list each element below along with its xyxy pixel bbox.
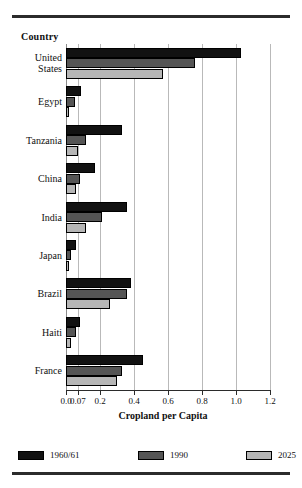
top-divider <box>12 15 290 18</box>
x-tick <box>66 390 67 395</box>
bar <box>66 97 75 107</box>
category-label-line: Tanzania <box>4 135 62 146</box>
legend-label: 2025 <box>278 450 296 460</box>
category-label-line: Egypt <box>4 96 62 107</box>
bar <box>66 338 71 348</box>
gridline <box>202 44 203 390</box>
bar <box>66 366 122 376</box>
bar <box>66 58 195 68</box>
category-label-line: Haiti <box>4 327 62 338</box>
x-tick-label: 0.2 <box>94 396 105 406</box>
gridline <box>236 44 237 390</box>
category-label: UnitedStates <box>4 52 62 74</box>
bar <box>66 327 76 337</box>
category-label-line: Brazil <box>4 288 62 299</box>
legend-swatch <box>18 451 44 460</box>
x-tick <box>168 390 169 395</box>
bar <box>66 212 102 222</box>
bar <box>66 278 131 288</box>
x-axis-title: Cropland per Capita <box>0 410 302 421</box>
category-label-line: United <box>4 52 62 63</box>
legend-item[interactable]: 1960/61 <box>18 448 80 462</box>
legend-label: 1960/61 <box>50 450 80 460</box>
bar <box>66 261 69 271</box>
bar <box>66 289 127 299</box>
gridline <box>134 44 135 390</box>
bar <box>66 135 86 145</box>
category-label-line: Japan <box>4 250 62 261</box>
x-tick <box>270 390 271 395</box>
legend-swatch <box>246 451 272 460</box>
x-tick <box>202 390 203 395</box>
bar <box>66 184 76 194</box>
bar <box>66 86 81 96</box>
category-label-line: States <box>4 63 62 74</box>
category-label: Tanzania <box>4 135 62 146</box>
x-tick-label: 0.8 <box>196 396 207 406</box>
category-label-line: China <box>4 173 62 184</box>
x-tick <box>236 390 237 395</box>
category-label: France <box>4 365 62 376</box>
x-tick-label: 0.07 <box>70 396 86 406</box>
chart-figure: Country UnitedStatesEgyptTanzaniaChinaIn… <box>0 0 302 488</box>
bar <box>66 202 127 212</box>
x-tick-label: 1.2 <box>264 396 275 406</box>
bar <box>66 240 76 250</box>
legend-item[interactable]: 2025 <box>246 448 296 462</box>
category-label: Haiti <box>4 327 62 338</box>
legend-label: 1990 <box>170 450 188 460</box>
bar <box>66 125 122 135</box>
bar <box>66 48 241 58</box>
category-label-line: India <box>4 212 62 223</box>
category-axis-title: Country <box>21 31 59 42</box>
x-tick <box>100 390 101 395</box>
bar <box>66 355 143 365</box>
x-tick-label: 1.0 <box>230 396 241 406</box>
x-tick-label: 0.4 <box>128 396 139 406</box>
category-label: India <box>4 212 62 223</box>
category-label: China <box>4 173 62 184</box>
gridline <box>168 44 169 390</box>
bar <box>66 146 78 156</box>
category-label: Brazil <box>4 288 62 299</box>
bar <box>66 69 163 79</box>
bar <box>66 107 69 117</box>
bar <box>66 223 86 233</box>
bar <box>66 299 110 309</box>
bottom-divider <box>12 472 290 475</box>
x-tick <box>78 390 79 395</box>
bar <box>66 376 117 386</box>
category-label-line: France <box>4 365 62 376</box>
x-tick <box>134 390 135 395</box>
legend-swatch <box>138 451 164 460</box>
bar <box>66 250 71 260</box>
x-tick-label: 0.6 <box>162 396 173 406</box>
legend-item[interactable]: 1990 <box>138 448 188 462</box>
bar <box>66 317 80 327</box>
bar <box>66 163 95 173</box>
gridline <box>270 44 271 390</box>
bar <box>66 174 80 184</box>
category-label: Egypt <box>4 96 62 107</box>
chart-legend: 1960/6119902025 <box>18 448 288 462</box>
category-label: Japan <box>4 250 62 261</box>
